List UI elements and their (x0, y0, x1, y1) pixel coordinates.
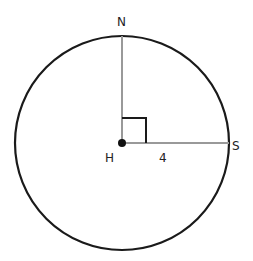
right-angle-marker (122, 118, 146, 143)
center-dot (118, 139, 126, 147)
circle-diagram: N H 4 S (0, 0, 253, 261)
label-s: S (232, 139, 240, 153)
label-length: 4 (159, 151, 167, 165)
label-h: H (105, 151, 114, 165)
label-n: N (117, 15, 126, 29)
